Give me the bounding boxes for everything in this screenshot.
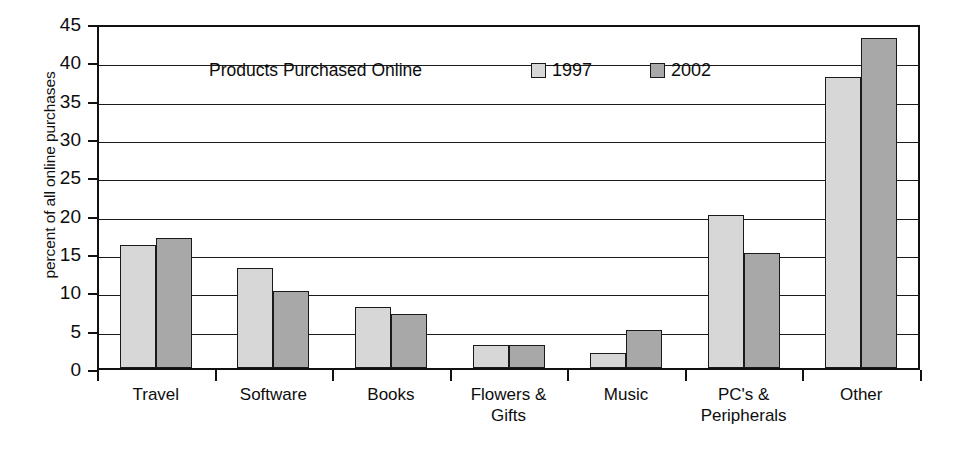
y-axis-tick-label: 0 [0,360,81,379]
y-axis-tick-label: 30 [0,130,81,149]
x-axis-tick-label: Flowers & Gifts [450,384,568,426]
x-axis-tick-label: Travel [97,384,215,405]
x-axis-tick-mark [802,370,804,381]
bar [825,77,861,368]
y-axis-tick-label: 10 [0,283,81,302]
y-axis-tick-label: 5 [0,322,81,341]
legend: 19972002 [531,60,711,81]
chart-title: Products Purchased Online [209,60,422,81]
bar [355,307,391,368]
y-axis-tick-label: 45 [0,15,81,34]
x-axis-tick-mark [97,370,99,381]
x-axis-tick-mark [332,370,334,381]
legend-item: 2002 [650,60,711,81]
legend-label: 1997 [552,60,592,81]
y-axis-tick-label: 15 [0,245,81,264]
x-axis-tick-mark [215,370,217,381]
y-axis-tick-label: 35 [0,92,81,111]
chart-figure: percent of all online purchases 05101520… [0,0,956,459]
x-axis-tick-mark [685,370,687,381]
legend-label: 2002 [671,60,711,81]
y-axis-tick-mark [88,370,97,372]
x-axis-tick-mark [567,370,569,381]
bar [590,353,626,368]
y-axis-tick-mark [88,25,97,27]
bar [237,268,273,368]
x-axis-tick-label: Software [215,384,333,405]
bar [391,314,427,368]
y-axis-tick-mark [88,63,97,65]
legend-swatch-icon [531,63,546,78]
bar [156,238,192,368]
y-axis-tick-label: 20 [0,207,81,226]
y-axis-tick-label: 40 [0,53,81,72]
bar [626,330,662,368]
bar [120,245,156,368]
y-axis-tick-mark [88,217,97,219]
x-axis-tick-label: Other [802,384,920,405]
bar [744,253,780,368]
y-axis-tick-label: 25 [0,168,81,187]
y-axis-tick-mark [88,140,97,142]
y-axis-tick-mark [88,102,97,104]
bar [509,345,545,368]
x-axis-tick-mark [450,370,452,381]
bar [473,345,509,368]
x-axis-tick-label: PC's & Peripherals [685,384,803,426]
legend-item: 1997 [531,60,592,81]
bar [861,38,897,368]
bar [708,215,744,368]
plot-area: Products Purchased Online 19972002 [97,25,920,370]
y-axis-tick-mark [88,293,97,295]
x-axis-tick-label: Music [567,384,685,405]
y-axis-tick-mark [88,332,97,334]
x-axis-tick-label: Books [332,384,450,405]
legend-swatch-icon [650,63,665,78]
y-axis-tick-mark [88,255,97,257]
x-axis-tick-mark [920,370,922,381]
y-axis-tick-mark [88,178,97,180]
bar [273,291,309,368]
